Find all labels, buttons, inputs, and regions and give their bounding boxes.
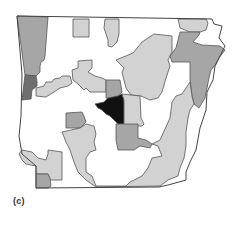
panel-label: (c) <box>13 196 25 206</box>
arkansas-map <box>0 0 247 227</box>
region-southwest-medium[interactable] <box>36 174 51 188</box>
region-north-central-1[interactable] <box>73 19 89 37</box>
